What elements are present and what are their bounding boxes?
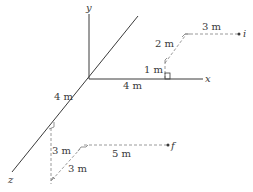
seg-2m-label: 2 m [155, 38, 175, 49]
seg-diag-3m-label: 3 m [68, 163, 88, 174]
right-angle-marker [165, 73, 170, 79]
final-point [167, 144, 170, 147]
final-point-label: f [170, 140, 177, 151]
displacement-diagram: y x z i 1 m 2 m 3 m 4 m 4 m f 3 m 3 m 5 … [0, 0, 253, 192]
seg-1m-label: 1 m [144, 64, 164, 75]
initial-path [165, 34, 238, 79]
seg-down-3m-label: 3 m [52, 145, 72, 156]
z-offset-label: 4 m [54, 91, 74, 102]
diagram-canvas: y x z i 1 m 2 m 3 m 4 m 4 m f 3 m 3 m 5 … [0, 0, 253, 192]
seg-5m-label: 5 m [112, 148, 132, 159]
initial-point [238, 33, 241, 36]
y-axis-label: y [85, 2, 92, 13]
z-axis-label: z [7, 174, 14, 185]
seg-3m-label: 3 m [202, 21, 222, 32]
x-offset-label: 4 m [123, 80, 143, 91]
initial-point-label: i [243, 28, 246, 39]
final-path [51, 128, 167, 184]
x-axis-label: x [205, 73, 211, 84]
